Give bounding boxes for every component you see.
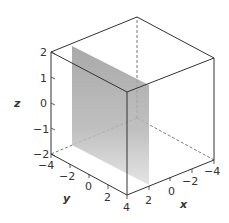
plane-surface [72, 46, 149, 185]
y-tick-label: −4 [38, 160, 54, 171]
x-tick-label: −4 [204, 166, 220, 177]
x-tick-label: −2 [182, 176, 198, 187]
x-tick-label: 0 [168, 186, 175, 197]
y-tick-label: 4 [123, 202, 130, 213]
y-tick-label: 2 [104, 192, 111, 203]
x-axis-title: x [180, 198, 187, 211]
y-tick-label: −2 [59, 171, 75, 182]
y-tick-label: 0 [85, 181, 92, 192]
z-axis-ticks [51, 52, 55, 156]
z-axis-title: z [14, 97, 20, 110]
z-tick-label: 2 [40, 47, 47, 58]
z-tick-label: 1 [40, 73, 47, 84]
plot-canvas [0, 0, 229, 223]
z-tick-label: −1 [33, 124, 49, 135]
x-tick-label: 2 [145, 195, 152, 206]
z-tick-label: 0 [40, 98, 47, 109]
y-axis-title: y [63, 192, 70, 205]
